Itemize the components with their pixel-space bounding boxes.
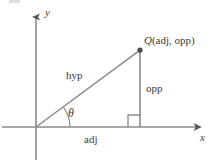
y-axis-label: y [45, 7, 50, 18]
theta-label: θ [68, 107, 74, 119]
figure-canvas [0, 0, 218, 165]
point-Q-name: Q [144, 34, 152, 46]
adjacent-label: adj [84, 134, 97, 145]
opposite-label: opp [146, 83, 163, 94]
point-Q-label: Q(adj, opp) [144, 35, 195, 46]
hypotenuse-label: hyp [66, 70, 83, 81]
point-Q-marker [137, 47, 142, 52]
x-axis-label: x [200, 132, 205, 143]
point-Q-coords: (adj, opp) [152, 34, 195, 46]
trig-figure: y x Q(adj, opp) hyp opp adj θ [0, 0, 218, 165]
hypotenuse-line [36, 51, 139, 127]
right-angle-marker [128, 115, 140, 127]
